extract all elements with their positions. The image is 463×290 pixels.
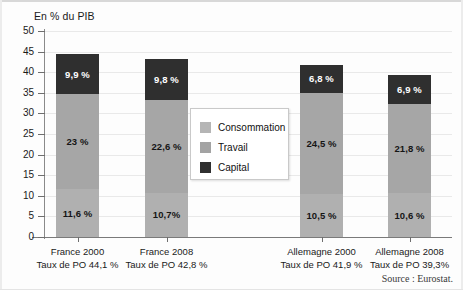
- bar-label-capital: 6,8 %: [309, 73, 334, 84]
- bar-column[interactable]: 6,9 %21,8 %10,6 %: [388, 75, 431, 237]
- gridline: [45, 72, 452, 73]
- bar-label-travail: 24,5 %: [306, 138, 336, 149]
- legend-swatch-travail-icon: [200, 142, 211, 153]
- y-tick-label: 0: [10, 231, 34, 242]
- gridline: [45, 31, 452, 32]
- bar-label-consommation: 10,6 %: [394, 210, 424, 221]
- x-axis-label-group: Allemagne 2008Taux de PO 39,3%: [355, 245, 463, 271]
- bar-label-travail: 23 %: [66, 136, 88, 147]
- bar-label-consommation: 10,7%: [153, 209, 180, 220]
- chart-figure: En % du PIB 05101520253035404550 9,9 %23…: [0, 0, 463, 290]
- bar-segment-consommation[interactable]: 10,6 %: [388, 193, 431, 237]
- legend-label-consommation: Consommation: [218, 122, 285, 133]
- bar-label-consommation: 10,5 %: [306, 210, 336, 221]
- bar-column[interactable]: 9,8 %22,6 %10,7%: [145, 59, 188, 237]
- x-axis-line: [32, 237, 452, 238]
- gridline: [45, 52, 452, 53]
- y-tick-label: 5: [10, 210, 34, 221]
- source-note: Source : Eurostat.: [382, 273, 453, 284]
- bar-column[interactable]: 6,8 %24,5 %10,5 %: [300, 65, 343, 237]
- bar-label-travail: 22,6 %: [151, 141, 181, 152]
- figure-border-left: [0, 0, 2, 290]
- x-axis-label-category: France 2008: [112, 245, 222, 258]
- y-tick-label: 20: [10, 149, 34, 160]
- x-axis-label-rate: Taux de PO 39,3%: [355, 258, 463, 271]
- x-tick-mark: [322, 237, 323, 242]
- y-tick-mark: [38, 52, 45, 53]
- x-axis-label-rate: Taux de PO 42,8 %: [112, 258, 222, 271]
- y-tick-mark: [38, 134, 45, 135]
- y-tick-label: 50: [10, 25, 34, 36]
- bar-segment-travail[interactable]: 22,6 %: [145, 100, 188, 193]
- y-tick-label: 30: [10, 107, 34, 118]
- y-tick-mark: [38, 113, 45, 114]
- bar-label-travail: 21,8 %: [394, 143, 424, 154]
- legend-item-travail[interactable]: Travail: [200, 137, 288, 157]
- bar-label-capital: 9,9 %: [65, 69, 90, 80]
- x-axis-label-category: Allemagne 2008: [355, 245, 463, 258]
- y-tick-mark: [38, 93, 45, 94]
- bar-segment-consommation[interactable]: 10,7%: [145, 193, 188, 237]
- legend-item-capital[interactable]: Capital: [200, 157, 288, 177]
- y-tick-label: 40: [10, 66, 34, 77]
- bar-segment-capital[interactable]: 9,8 %: [145, 59, 188, 99]
- bar-segment-capital[interactable]: 9,9 %: [56, 54, 99, 95]
- bar-label-consommation: 11,6 %: [63, 208, 93, 219]
- bar-label-capital: 6,9 %: [397, 84, 422, 95]
- y-tick-mark: [38, 175, 45, 176]
- y-tick-label: 10: [10, 190, 34, 201]
- bar-segment-travail[interactable]: 21,8 %: [388, 104, 431, 194]
- bar-segment-capital[interactable]: 6,8 %: [300, 65, 343, 93]
- y-tick-label: 25: [10, 128, 34, 139]
- legend-swatch-consommation-icon: [200, 122, 211, 133]
- y-tick-mark: [38, 237, 45, 238]
- legend-swatch-capital-icon: [200, 162, 211, 173]
- bar-segment-consommation[interactable]: 11,6 %: [56, 189, 99, 237]
- y-tick-label: 45: [10, 46, 34, 57]
- bar-segment-travail[interactable]: 23 %: [56, 94, 99, 189]
- legend-label-capital: Capital: [218, 162, 249, 173]
- y-tick-mark: [38, 155, 45, 156]
- y-tick-mark: [38, 31, 45, 32]
- bar-segment-travail[interactable]: 24,5 %: [300, 93, 343, 194]
- x-tick-mark: [167, 237, 168, 242]
- legend-label-travail: Travail: [218, 142, 248, 153]
- x-axis-label-group: France 2008Taux de PO 42,8 %: [112, 245, 222, 271]
- x-tick-mark: [410, 237, 411, 242]
- y-tick-label: 35: [10, 87, 34, 98]
- y-tick-mark: [38, 216, 45, 217]
- bar-label-capital: 9,8 %: [154, 74, 179, 85]
- y-axis-title: En % du PIB: [34, 10, 95, 22]
- bar-segment-capital[interactable]: 6,9 %: [388, 75, 431, 103]
- figure-border-top: [0, 0, 463, 2]
- chart-legend: Consommation Travail Capital: [190, 108, 289, 180]
- y-tick-label: 15: [10, 169, 34, 180]
- bar-column[interactable]: 9,9 %23 %11,6 %: [56, 54, 99, 237]
- bar-segment-consommation[interactable]: 10,5 %: [300, 194, 343, 237]
- y-tick-mark: [38, 72, 45, 73]
- legend-item-consommation[interactable]: Consommation: [200, 117, 288, 137]
- x-tick-mark: [78, 237, 79, 242]
- y-tick-mark: [38, 196, 45, 197]
